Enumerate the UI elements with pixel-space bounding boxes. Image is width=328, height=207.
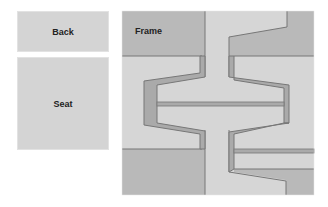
bottom-rail [234, 149, 314, 153]
frame-label: Frame [135, 26, 162, 36]
crossbar [157, 102, 284, 106]
frame-diagram[interactable] [0, 0, 328, 207]
bottom-left-block [122, 149, 205, 195]
